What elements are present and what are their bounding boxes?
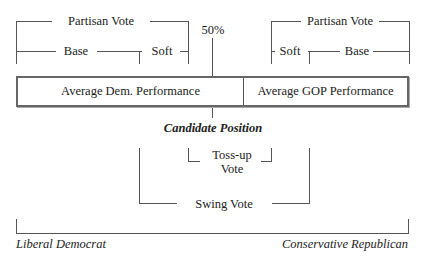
- bracket-line: [309, 148, 310, 204]
- swing-vote-label: Swing Vote: [192, 197, 256, 211]
- bracket-line: [16, 21, 17, 64]
- axis-line: [408, 219, 409, 234]
- bracket-line: [271, 51, 275, 52]
- right-base-label: Base: [342, 44, 372, 58]
- bracket-line: [271, 148, 272, 161]
- gop-performance-cell: Average GOP Performance: [244, 78, 407, 105]
- right-soft-label: Soft: [277, 44, 304, 58]
- tossup-label-line2: Vote: [218, 162, 247, 176]
- bracket-line: [188, 161, 200, 162]
- left-partisan-vote-label: Partisan Vote: [65, 14, 137, 28]
- axis-right-label: Conservative Republican: [279, 237, 411, 251]
- dem-performance-label: Average Dem. Performance: [61, 84, 200, 99]
- performance-bar: Average Dem. Performance Average GOP Per…: [16, 76, 409, 107]
- bracket-line: [139, 203, 177, 204]
- bracket-line: [373, 51, 410, 52]
- bracket-line: [271, 21, 272, 64]
- bracket-line: [16, 21, 52, 22]
- bracket-line: [16, 51, 56, 52]
- bracket-line: [139, 51, 140, 64]
- left-soft-label: Soft: [149, 44, 176, 58]
- bracket-line: [271, 21, 301, 22]
- candidate-position-label: Candidate Position: [161, 121, 265, 135]
- left-base-label: Base: [61, 44, 91, 58]
- right-partisan-vote-label: Partisan Vote: [304, 14, 376, 28]
- bracket-line: [139, 148, 140, 204]
- dem-performance-cell: Average Dem. Performance: [18, 78, 244, 105]
- bracket-line: [309, 51, 310, 64]
- axis-line: [16, 233, 409, 234]
- bracket-line: [261, 161, 272, 162]
- midpoint-label: 50%: [199, 23, 228, 37]
- bracket-line: [272, 203, 310, 204]
- bracket-line: [409, 21, 410, 64]
- bracket-line: [180, 51, 188, 52]
- axis-line: [16, 219, 17, 234]
- tossup-label-line1: Toss-up: [209, 148, 254, 162]
- candidate-position-tick: [212, 108, 213, 118]
- bracket-line: [188, 21, 189, 64]
- gop-performance-label: Average GOP Performance: [257, 84, 393, 99]
- bracket-line: [188, 148, 189, 161]
- bracket-line: [308, 51, 340, 52]
- axis-left-label: Liberal Democrat: [13, 237, 109, 251]
- midpoint-line: [212, 38, 213, 76]
- bracket-line: [97, 51, 142, 52]
- bracket-line: [150, 21, 189, 22]
- bracket-line: [379, 21, 410, 22]
